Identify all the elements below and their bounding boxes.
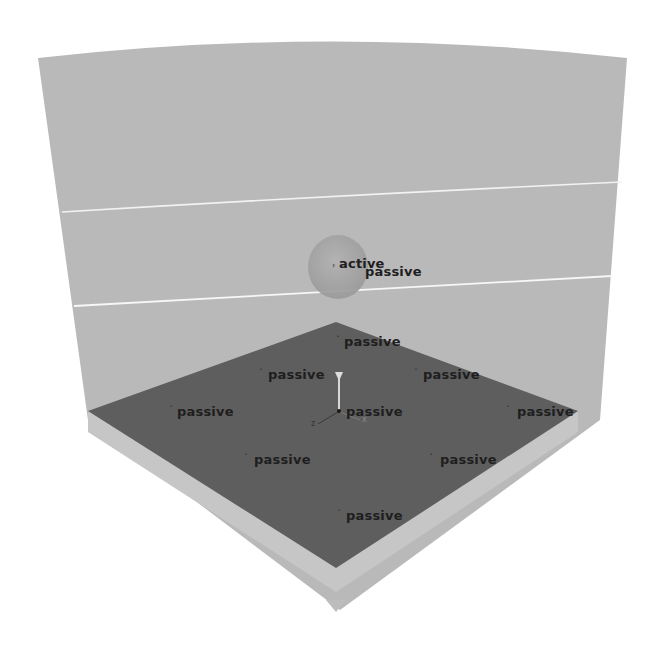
passive-marker-icon: ˇ [506,407,510,415]
passive-label: passive [346,405,403,418]
passive-label: passive [254,453,311,466]
passive-label: passive [177,405,234,418]
passive-marker-icon: ˇ [244,455,248,463]
passive-label: passive [423,368,480,381]
scene-canvas [0,0,665,660]
z-axis-label: z [311,420,315,428]
origin-marker [337,409,341,413]
active-marker-icon: › [332,262,335,270]
passive-label: passive [268,368,325,381]
passive-label: passive [344,335,401,348]
passive-label: passive [346,509,403,522]
3d-viewport[interactable]: › active passive ˇ passive ˇ passive ˇ p… [0,0,665,660]
passive-label: passive [440,453,497,466]
passive-marker-icon: ˇ [414,370,418,378]
passive-marker-icon: ˇ [337,511,341,519]
passive-marker-icon: ˇ [429,455,433,463]
sphere-passive-label: passive [365,265,422,278]
x-axis-label: x [362,416,367,424]
passive-marker-icon: ˇ [169,407,173,415]
passive-label: passive [517,405,574,418]
passive-marker-icon: ˇ [336,337,340,345]
passive-marker-icon: ˇ [259,370,263,378]
